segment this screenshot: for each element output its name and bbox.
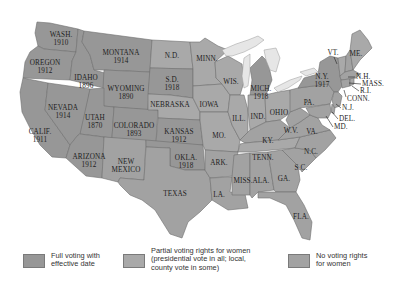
legend-item-none: No voting rights for women bbox=[288, 252, 367, 269]
us-map: WASH. 1910 OREGON 1912 CALIF. 1911 IDAHO… bbox=[0, 0, 403, 245]
legend-swatch-none bbox=[288, 254, 310, 268]
label-wv-name: W.V. bbox=[284, 127, 298, 135]
label-ny-year: 1917 bbox=[315, 81, 330, 89]
label-sd-name: S.D. bbox=[165, 76, 178, 84]
label-fl-name: FLA. bbox=[293, 213, 309, 221]
label-id-name: IDAHO bbox=[74, 74, 98, 82]
label-mi-year: 1918 bbox=[254, 93, 269, 101]
label-ny-name: N.Y. bbox=[315, 73, 329, 81]
label-ut-year: 1870 bbox=[88, 122, 103, 130]
state-ms bbox=[232, 153, 250, 195]
label-de-name: DEL. bbox=[339, 115, 355, 123]
label-or-year: 1912 bbox=[38, 67, 53, 75]
label-nj-name: N.J. bbox=[342, 104, 354, 112]
label-wi-name: WIS. bbox=[223, 78, 238, 86]
legend-label-partial: Partial voting rights for women (preside… bbox=[151, 247, 250, 272]
label-nm-name-2: MEXICO bbox=[112, 166, 141, 174]
label-wy-year: 1890 bbox=[119, 93, 134, 101]
label-vt-name: VT. bbox=[327, 49, 338, 57]
label-ok-year: 1918 bbox=[179, 162, 194, 170]
label-pa-name: PA. bbox=[304, 99, 315, 107]
label-ms-name: MISS. bbox=[233, 177, 252, 185]
label-mi-name: MICH. bbox=[250, 85, 271, 93]
label-mt-name: MONTANA bbox=[103, 49, 141, 57]
label-nm-name-1: NEW bbox=[118, 158, 135, 166]
label-ut-name: UTAH bbox=[85, 114, 105, 122]
label-la-name: LA. bbox=[213, 191, 225, 199]
label-in-name: IND. bbox=[251, 113, 266, 121]
label-ia-name: IOWA bbox=[199, 101, 219, 109]
label-ks-name: KANSAS bbox=[164, 128, 193, 136]
label-al-name: ALA. bbox=[253, 177, 270, 185]
lake-superior bbox=[222, 36, 264, 56]
label-az-year: 1912 bbox=[82, 161, 97, 169]
leader-ri bbox=[352, 86, 359, 91]
label-tx-name: TEXAS bbox=[163, 190, 187, 198]
label-md-name: MD. bbox=[334, 123, 348, 131]
label-oh-name: OHIO bbox=[270, 109, 288, 117]
label-wa-year: 1910 bbox=[54, 39, 69, 47]
label-sc-name: S.C. bbox=[295, 164, 308, 172]
label-co-name: COLORADO bbox=[114, 122, 155, 130]
legend-swatch-full bbox=[23, 254, 45, 268]
label-mo-name: MO. bbox=[212, 132, 226, 140]
legend-item-full: Full voting with effective date bbox=[23, 252, 100, 269]
label-az-name: ARIZONA bbox=[72, 153, 106, 161]
state-ri bbox=[350, 78, 354, 86]
map-legend: Full voting with effective date Partial … bbox=[0, 252, 403, 286]
label-or-name: OREGON bbox=[30, 59, 61, 67]
label-il-name: ILL. bbox=[232, 115, 245, 123]
legend-label-none: No voting rights for women bbox=[316, 252, 367, 269]
label-ok-name: OKLA. bbox=[175, 154, 197, 162]
label-mn-name: MINN. bbox=[196, 55, 218, 63]
leader-de bbox=[332, 112, 338, 119]
label-tn-name: TENN. bbox=[252, 154, 274, 162]
label-sd-year: 1918 bbox=[165, 84, 180, 92]
legend-item-partial: Partial voting rights for women (preside… bbox=[123, 247, 250, 272]
label-va-name: VA. bbox=[306, 128, 318, 136]
state-ct bbox=[341, 79, 350, 88]
leader-md bbox=[326, 116, 333, 127]
label-id-year: 1896 bbox=[79, 82, 94, 90]
label-ca-year: 1911 bbox=[33, 136, 48, 144]
label-wy-name: WYOMING bbox=[107, 85, 144, 93]
label-nv-name: NEVADA bbox=[48, 104, 79, 112]
label-ri-name: R.I. bbox=[360, 87, 371, 95]
legend-label-full: Full voting with effective date bbox=[51, 252, 100, 269]
label-co-year: 1893 bbox=[127, 130, 142, 138]
label-me-name: ME. bbox=[350, 50, 363, 58]
lake-michigan bbox=[242, 54, 250, 88]
label-nc-name: N.C. bbox=[304, 148, 318, 156]
legend-swatch-partial bbox=[123, 254, 145, 268]
label-ks-year: 1912 bbox=[172, 136, 187, 144]
label-wa-name: WASH. bbox=[50, 31, 73, 39]
label-ky-name: KY. bbox=[262, 137, 274, 145]
label-ga-name: GA. bbox=[278, 175, 291, 183]
label-ar-name: ARK. bbox=[210, 159, 227, 167]
label-mt-year: 1914 bbox=[114, 57, 129, 65]
label-nv-year: 1914 bbox=[56, 112, 71, 120]
label-nd-name: N.D. bbox=[165, 52, 179, 60]
label-ca-name: CALIF. bbox=[29, 128, 52, 136]
label-ne-name: NEBRASKA bbox=[150, 101, 190, 109]
leader-ct bbox=[344, 90, 346, 97]
label-ct-name: CONN. bbox=[347, 95, 370, 103]
